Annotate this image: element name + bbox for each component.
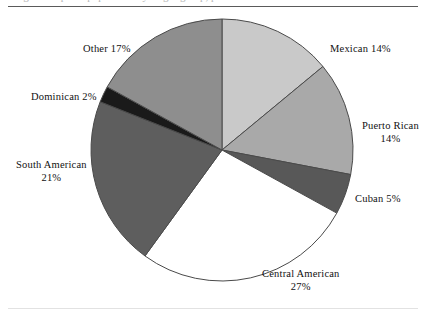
pie-label-cuban: Cuban 5%	[355, 193, 401, 206]
pie-label-puerto-rican-name: Puerto Rican	[362, 120, 419, 133]
pie-label-mexican: Mexican 14%	[330, 43, 391, 56]
pie-label-central-american-name: Central American	[262, 268, 340, 281]
pie-label-mexican-text: Mexican 14%	[330, 43, 391, 54]
pie-label-central-american-value: 27%	[262, 281, 340, 294]
pie-slices	[91, 19, 353, 281]
bottom-divider-rule	[8, 308, 418, 309]
pie-label-other-text: Other 17%	[83, 43, 131, 54]
pie-label-dominican: Dominican 2%	[31, 91, 97, 104]
pie-label-puerto-rican-value: 14%	[362, 133, 419, 146]
pie-label-cuban-text: Cuban 5%	[355, 193, 401, 204]
pie-chart: Other 17% Mexican 14% Dominican 2% Puert…	[0, 0, 426, 311]
pie-label-puerto-rican: Puerto Rican 14%	[362, 120, 419, 145]
pie-label-south-american-value: 21%	[16, 172, 87, 185]
figure-page: Figure Hispanic population by origin gro…	[0, 0, 426, 311]
pie-label-south-american-name: South American	[16, 159, 87, 172]
pie-label-central-american: Central American 27%	[262, 268, 340, 293]
pie-label-south-american: South American 21%	[16, 159, 87, 184]
pie-label-other: Other 17%	[83, 43, 131, 56]
pie-label-dominican-text: Dominican 2%	[31, 91, 97, 102]
